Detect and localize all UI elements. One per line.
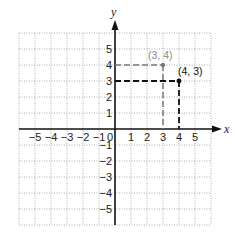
- y-tick: −3: [99, 171, 112, 183]
- y-tick: 4: [106, 59, 112, 71]
- y-axis-label: y: [110, 5, 117, 19]
- x-tick: −5: [29, 131, 42, 143]
- x-tick: 4: [176, 131, 182, 143]
- x-tick: −3: [61, 131, 74, 143]
- y-tick: −1: [99, 139, 112, 151]
- y-tick: 3: [106, 75, 112, 87]
- x-tick: 3: [160, 131, 166, 143]
- y-axis-arrow-icon: [112, 20, 119, 30]
- point-label-4-3: (4, 3): [178, 65, 203, 77]
- y-tick: 2: [106, 91, 112, 103]
- x-tick: −2: [77, 131, 90, 143]
- x-tick: 1: [128, 131, 134, 143]
- y-tick: −2: [99, 155, 112, 167]
- y-tick: −5: [99, 203, 112, 215]
- point-3-4: [161, 63, 165, 67]
- y-tick: 5: [106, 43, 112, 55]
- axes: [19, 30, 214, 225]
- y-tick: 1: [106, 107, 112, 119]
- x-tick-labels: −5 −4 −3 −2 −1 0 1 2 3 4 5: [29, 131, 198, 143]
- x-axis-arrow-icon: [212, 126, 222, 133]
- coordinate-plane: x y −5 −4 −3 −2 −1 0 1 2 3 4 5 1 2 3 4 5…: [0, 0, 237, 240]
- y-tick: −4: [99, 187, 112, 199]
- point-label-3-4: (3, 4): [148, 49, 173, 61]
- x-tick: 2: [144, 131, 150, 143]
- point-4-3: [177, 79, 182, 84]
- x-tick: 5: [192, 131, 198, 143]
- x-tick: −4: [45, 131, 58, 143]
- x-axis-label: x: [223, 122, 230, 136]
